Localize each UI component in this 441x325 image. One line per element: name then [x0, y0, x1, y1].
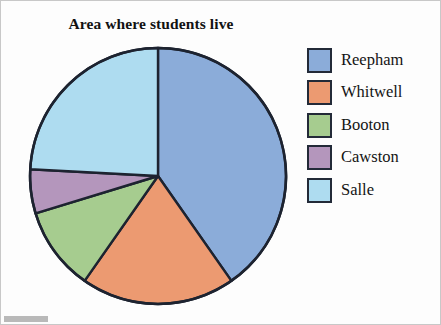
- legend-item-booton[interactable]: Booton: [307, 111, 439, 139]
- pie-plot-area: [1, 1, 301, 325]
- legend-swatch-reepham: [307, 48, 332, 73]
- legend-item-cawston[interactable]: Cawston: [307, 144, 439, 172]
- page-edge-marker: [4, 316, 48, 322]
- legend-item-salle[interactable]: Salle: [307, 176, 439, 204]
- pie-chart-figure: Area where students live Reepham Whitwel…: [0, 0, 441, 325]
- legend-label-booton: Booton: [341, 117, 390, 134]
- legend-swatch-salle: [307, 178, 332, 203]
- legend-swatch-whitwell: [307, 80, 332, 105]
- legend-item-reepham[interactable]: Reepham: [307, 46, 439, 74]
- legend-swatch-cawston: [307, 145, 332, 170]
- legend-label-cawston: Cawston: [341, 149, 399, 166]
- legend-label-whitwell: Whitwell: [341, 84, 402, 101]
- pie-svg: [1, 1, 301, 325]
- pie-slice-salle[interactable]: [30, 48, 158, 176]
- legend: Reepham Whitwell Booton Cawston Salle: [307, 46, 439, 209]
- legend-label-salle: Salle: [341, 182, 374, 199]
- legend-label-reepham: Reepham: [341, 52, 403, 69]
- legend-swatch-booton: [307, 113, 332, 138]
- legend-item-whitwell[interactable]: Whitwell: [307, 79, 439, 107]
